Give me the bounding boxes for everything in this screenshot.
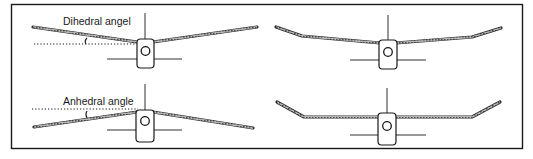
panel-polyhedral <box>276 15 501 69</box>
dihedral-label: Dihedral angel <box>63 15 131 27</box>
panel-dihedral: Dihedral angel <box>33 13 257 68</box>
left-wing-texture <box>277 102 379 117</box>
right-wing-texture <box>153 112 253 128</box>
anhedral-label: Anhedral angle <box>63 95 134 107</box>
angle-arc-icon <box>85 38 87 44</box>
left-wing <box>276 27 380 43</box>
right-wing-texture <box>153 27 257 42</box>
panel-anhedral: Anhedral angle <box>32 84 253 142</box>
fuselage-body <box>136 110 154 142</box>
panel-tip-dihedral <box>277 88 500 145</box>
fuselage-circle <box>383 122 392 131</box>
right-wing <box>396 28 501 43</box>
fuselage-circle <box>141 117 150 126</box>
wing-angle-diagram: Dihedral angel Anhedral angle <box>0 0 533 159</box>
angle-arc-icon <box>86 111 87 118</box>
fuselage-circle <box>141 47 150 56</box>
fuselage-circle <box>384 48 393 57</box>
right-wing-texture <box>396 102 500 117</box>
